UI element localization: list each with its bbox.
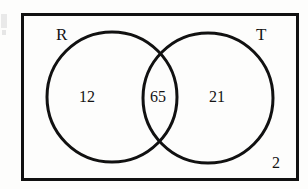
region-value-r-only: 12 <box>79 89 95 105</box>
region-value-intersection: 65 <box>150 89 166 105</box>
region-value-t-only: 21 <box>209 89 225 105</box>
set-label-t: T <box>256 26 266 43</box>
region-value-outside: 2 <box>272 155 280 171</box>
venn-diagram-figure: R T 12 65 21 2 <box>0 0 308 189</box>
set-label-r: R <box>56 26 67 43</box>
